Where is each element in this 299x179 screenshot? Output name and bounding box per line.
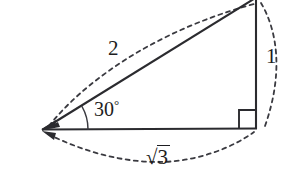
geometry-diagram: 2 1 30° √3 xyxy=(0,0,299,179)
right-angle-square-icon xyxy=(239,110,256,128)
arrowhead-icon-base xyxy=(42,131,56,140)
hypotenuse-length-label: 2 xyxy=(108,38,119,59)
triangle-edge-base xyxy=(42,129,257,130)
angle-measure-label: 30° xyxy=(94,98,119,119)
angle-measure-value: 30 xyxy=(94,98,114,120)
base-length-label: √3 xyxy=(146,145,170,168)
vertical-side-length-label: 1 xyxy=(266,46,277,67)
triangle-edge-hypotenuse xyxy=(42,0,257,130)
radicand-value: 3 xyxy=(157,145,171,168)
degree-symbol: ° xyxy=(114,97,119,112)
radical-expression: √3 xyxy=(146,145,170,168)
angle-arc-icon xyxy=(82,107,88,130)
